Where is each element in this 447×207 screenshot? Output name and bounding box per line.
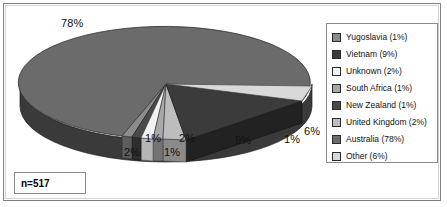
legend-item-united-kingdom[interactable]: United Kingdom (2%) bbox=[332, 114, 433, 130]
legend-label-united-kingdom: United Kingdom (2%) bbox=[346, 117, 427, 127]
sample-size-label: n=517 bbox=[21, 178, 50, 189]
chart-legend: Yugoslavia (1%) Vietnam (9%) Unknown (2%… bbox=[326, 23, 438, 163]
legend-swatch-other bbox=[332, 152, 341, 161]
legend-item-australia[interactable]: Australia (78%) bbox=[332, 131, 433, 147]
slice-label-vietnam: 9% bbox=[235, 134, 251, 146]
legend-label-south-africa: South Africa (1%) bbox=[346, 83, 412, 93]
legend-swatch-vietnam bbox=[332, 50, 341, 59]
chart-inner-frame: 78% 1% 2% 1% 2% 9% 1% 6% Yugoslavia (1%)… bbox=[5, 5, 439, 199]
legend-item-unknown[interactable]: Unknown (2%) bbox=[332, 63, 433, 79]
slice-label-new-zealand: 1% bbox=[284, 133, 300, 145]
slice-label-unknown-upper: 1% bbox=[145, 132, 161, 144]
legend-item-other[interactable]: Other (6%) bbox=[332, 148, 433, 164]
legend-swatch-unknown bbox=[332, 67, 341, 76]
slice-label-australia: 78% bbox=[61, 17, 83, 29]
slice-label-yugoslavia: 2% bbox=[124, 146, 140, 158]
legend-item-yugoslavia[interactable]: Yugoslavia (1%) bbox=[332, 29, 433, 45]
legend-item-vietnam[interactable]: Vietnam (9%) bbox=[332, 46, 433, 62]
legend-label-unknown: Unknown (2%) bbox=[346, 66, 402, 76]
pie-chart-plot-area: 78% 1% 2% 1% 2% 9% 1% 6% Yugoslavia (1%)… bbox=[6, 6, 444, 204]
legend-swatch-united-kingdom bbox=[332, 118, 341, 127]
chart-outer-frame: 78% 1% 2% 1% 2% 9% 1% 6% Yugoslavia (1%)… bbox=[3, 3, 441, 201]
legend-label-other: Other (6%) bbox=[346, 151, 388, 161]
sample-size-box: n=517 bbox=[14, 172, 86, 194]
legend-label-vietnam: Vietnam (9%) bbox=[346, 49, 397, 59]
legend-swatch-yugoslavia bbox=[332, 33, 341, 42]
legend-swatch-australia bbox=[332, 135, 341, 144]
slice-label-south-africa: 1% bbox=[164, 146, 180, 158]
legend-swatch-new-zealand bbox=[332, 101, 341, 110]
slice-label-other: 6% bbox=[304, 125, 320, 137]
slice-label-united-kingdom: 2% bbox=[179, 132, 195, 144]
legend-label-new-zealand: New Zealand (1%) bbox=[346, 100, 416, 110]
legend-item-new-zealand[interactable]: New Zealand (1%) bbox=[332, 97, 433, 113]
legend-label-yugoslavia: Yugoslavia (1%) bbox=[346, 32, 407, 42]
legend-item-south-africa[interactable]: South Africa (1%) bbox=[332, 80, 433, 96]
legend-swatch-south-africa bbox=[332, 84, 341, 93]
legend-label-australia: Australia (78%) bbox=[346, 134, 404, 144]
